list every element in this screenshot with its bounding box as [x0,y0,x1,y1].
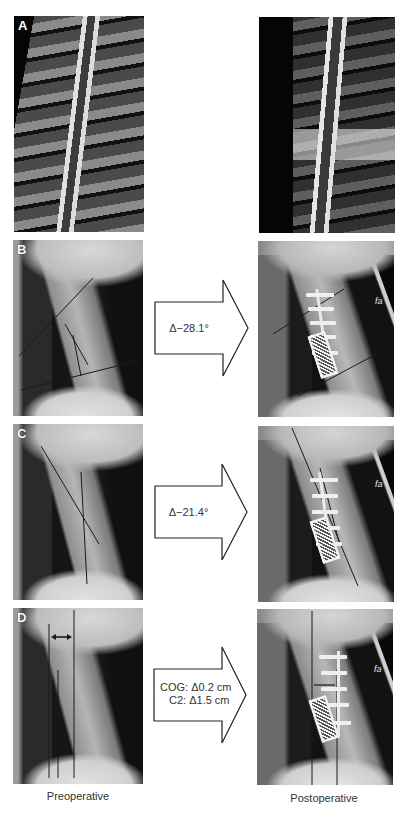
xray-c-postop-panel: fa [258,426,394,602]
xray-c-preop-panel: C [13,424,143,600]
arrow-c-label: Δ−21.4° [155,506,222,518]
mri-postop-panel [259,17,395,233]
xray-d-preop-panel: D [13,608,143,784]
radiograph-marker: fa [375,479,383,489]
mri-preop-panel: A [14,16,144,232]
xray-d-postop-panel: fa [257,609,393,785]
radiograph-marker: fa [374,664,382,674]
xray-b-preop-panel: B [13,240,143,416]
sva-overlay [13,424,143,600]
cobb-angle-overlay-post [258,241,394,417]
cobb-change-b: Δ−28.1° [155,322,223,334]
c2-change: C2: Δ1.5 cm [150,694,248,707]
xray-b-postop-panel: fa [258,241,394,417]
cobb-angle-overlay [13,240,143,416]
arrow-b-label: Δ−28.1° [155,322,223,334]
cog-change: COG: Δ0.2 cm [150,681,248,694]
arrow-d-label: COG: Δ0.2 cm C2: Δ1.5 cm [150,681,248,707]
radiograph-marker: fa [375,296,383,306]
cog-c2-plumb-overlay [13,608,143,784]
panel-letter-a: A [18,19,27,32]
caption-postoperative: Postoperative [290,792,357,804]
cobb-change-c: Δ−21.4° [155,506,222,518]
caption-preoperative: Preoperative [47,790,109,802]
